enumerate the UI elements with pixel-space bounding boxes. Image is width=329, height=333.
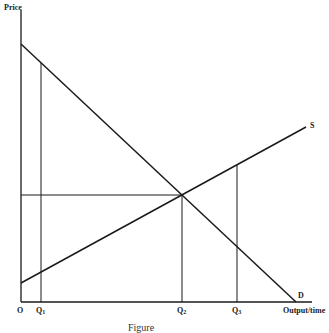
- q2-label: Q2: [177, 306, 186, 315]
- supply-label: S: [310, 121, 314, 130]
- demand-label: D: [298, 291, 304, 300]
- y-axis-label: Price: [4, 3, 22, 12]
- q3-label: Q3: [232, 306, 241, 315]
- figure-caption: Figure: [128, 322, 154, 333]
- origin-label: O: [17, 306, 23, 315]
- demand-curve: [21, 44, 296, 302]
- x-axis-label: Output/time: [283, 306, 325, 315]
- q1-label: Q1: [36, 306, 45, 315]
- supply-curve: [21, 127, 306, 283]
